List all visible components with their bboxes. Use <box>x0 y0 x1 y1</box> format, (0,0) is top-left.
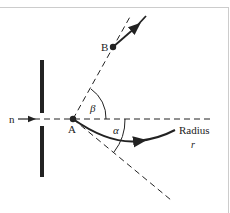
curved-trajectory-end <box>138 130 175 141</box>
diagram-canvas: n A B β α Radius r <box>0 0 230 213</box>
radius-label: Radius <box>179 124 210 136</box>
alpha-label: α <box>113 124 119 136</box>
dashed-line-to-b <box>73 15 131 119</box>
b-trajectory-tail <box>134 16 146 29</box>
b-trajectory <box>113 27 136 47</box>
point-a-dot <box>70 116 76 122</box>
incoming-label: n <box>9 113 15 125</box>
radius-symbol-label: r <box>191 139 195 150</box>
beta-label: β <box>89 102 96 114</box>
point-b-dot <box>110 44 116 50</box>
dashed-tangent-line <box>73 119 171 200</box>
curved-trajectory <box>73 119 140 142</box>
point-a-label: A <box>68 123 76 135</box>
point-b-label: B <box>101 41 108 53</box>
